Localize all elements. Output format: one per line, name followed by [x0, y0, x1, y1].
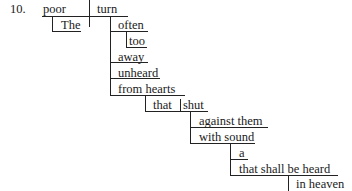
- word-the: The: [61, 19, 80, 32]
- modifier-line-against-them: [190, 127, 268, 128]
- modifier-line-that-shall-be-heard: [230, 175, 338, 176]
- modifier-line-from-hearts: [110, 95, 185, 96]
- word-verb: turn: [97, 3, 117, 16]
- modifier-line-often: [110, 31, 148, 32]
- word-against-them: against them: [199, 115, 263, 128]
- word-in-heaven: in heaven: [296, 178, 344, 191]
- modifier-line-away: [110, 62, 148, 63]
- word-too: too: [129, 35, 145, 48]
- modifier-stem-too: [126, 31, 127, 47]
- modifier-line-the: [52, 31, 81, 32]
- baseline-main: [42, 16, 128, 17]
- modifier-line-unheard: [110, 78, 160, 79]
- word-subject: poor: [43, 3, 66, 16]
- subject-verb-divider: [89, 0, 90, 27]
- modifier-line-a: [230, 159, 248, 160]
- verb-modifier-stem: [110, 16, 111, 95]
- word-shut: shut: [183, 99, 204, 112]
- clause-divider: [180, 99, 181, 111]
- diagram-number: 10.: [10, 3, 26, 16]
- word-with-sound: with sound: [199, 131, 254, 144]
- modifier-line-with-sound: [190, 143, 255, 144]
- word-a: a: [239, 147, 245, 160]
- word-from-hearts: from hearts: [118, 83, 175, 96]
- word-often: often: [118, 19, 144, 32]
- modifier-stem-the: [52, 16, 53, 31]
- baseline-clause: [145, 111, 208, 112]
- modifier-line-too: [126, 47, 147, 48]
- heard-modifier-stem: [288, 175, 289, 191]
- clause-stem-that: [145, 95, 146, 111]
- word-that: that: [153, 99, 172, 112]
- word-that-shall-be-heard: that shall be heard: [239, 163, 330, 176]
